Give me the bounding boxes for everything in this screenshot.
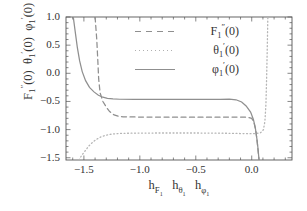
legend-item-F1pp: F1″(0)	[132, 23, 237, 42]
legend-swatch-dashed-icon	[135, 31, 175, 32]
legend-item-theta1p: θ1′(0)	[132, 42, 237, 61]
chart-legend: F1″(0)θ1′(0)φ1′(0)	[132, 23, 237, 80]
chart-figure: F1″(0) θ1′(0) φ1′(0) hF1 hθ1 hφ1 1.00.50…	[0, 0, 307, 211]
legend-label: φ1′(0)	[212, 60, 239, 78]
legend-swatch-solid-icon	[135, 69, 175, 70]
legend-label: F1″(0)	[211, 22, 239, 40]
legend-swatch-dotted-icon	[135, 50, 175, 51]
legend-label: θ1′(0)	[213, 41, 239, 59]
legend-item-phi1p: φ1′(0)	[132, 61, 237, 80]
